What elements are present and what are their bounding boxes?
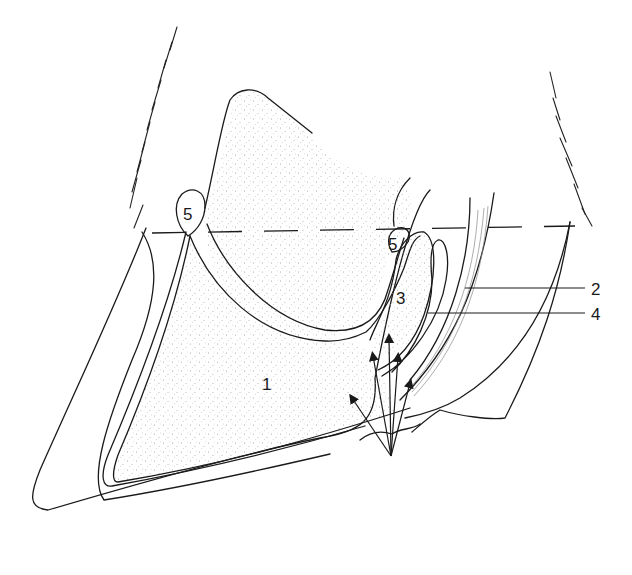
hair-strokes-left xyxy=(130,27,177,228)
label-3: 3 xyxy=(396,289,405,308)
hair-strokes-right xyxy=(550,72,592,226)
label-5b: 5 xyxy=(388,235,397,254)
label-1: 1 xyxy=(262,375,271,394)
label-5a: 5 xyxy=(183,205,192,224)
short-pastern-bone xyxy=(204,92,411,336)
heel-inner xyxy=(412,222,570,432)
hoof-diagram: 1 2 3 4 5 5 xyxy=(0,0,632,575)
label-2: 2 xyxy=(591,280,600,299)
label-4: 4 xyxy=(591,305,600,324)
